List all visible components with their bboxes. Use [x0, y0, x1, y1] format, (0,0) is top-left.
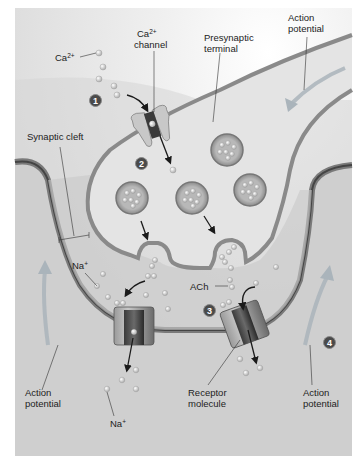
label-synaptic-cleft: Synaptic cleft	[27, 131, 84, 142]
label-ca-ion: Ca2+	[55, 52, 75, 63]
label-presynaptic-terminal: Presynaptic terminal	[204, 32, 254, 54]
step-badge-1: 1	[89, 94, 102, 107]
label-na-lower: Na+	[110, 418, 126, 429]
label-action-potential-top: Action potential	[288, 12, 324, 34]
receptor-channel-left	[114, 307, 154, 345]
label-receptor-molecule: Receptor molecule	[188, 387, 227, 409]
label-na-upper: Na+	[72, 260, 88, 271]
step-badge-2: 2	[135, 157, 148, 170]
label-action-potential-right: Action potential	[303, 387, 339, 409]
step-badge-3: 3	[203, 304, 216, 317]
label-ach: ACh	[190, 281, 208, 292]
step-badge-4: 4	[323, 336, 336, 349]
synapse-diagram: Ca2+ Ca2+ channel Presynaptic terminal A…	[0, 0, 362, 469]
label-action-potential-left: Action potential	[25, 387, 61, 409]
label-ca-channel: Ca2+ channel	[134, 28, 167, 50]
